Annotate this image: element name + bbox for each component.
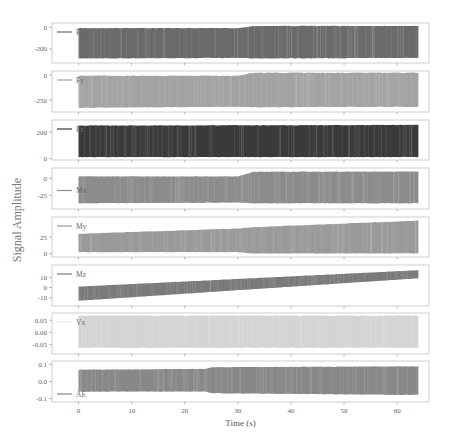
x-tick-label: 30 bbox=[234, 407, 242, 415]
y-tick-label: 25 bbox=[40, 234, 48, 242]
y-tick-label: -0.05 bbox=[32, 341, 47, 349]
signal-fz bbox=[79, 125, 419, 158]
legend-label: AE bbox=[76, 390, 86, 399]
y-tick-label: -25 bbox=[38, 192, 48, 200]
legend-label: Mz bbox=[76, 270, 87, 279]
y-tick-label: 0.1 bbox=[38, 361, 47, 369]
signal-ae bbox=[79, 366, 419, 395]
legend-label: Vx bbox=[76, 318, 85, 327]
y-tick-label: 0.05 bbox=[35, 317, 48, 325]
y-tick-label: 0 bbox=[44, 155, 48, 163]
x-tick-label: 40 bbox=[287, 407, 295, 415]
x-axis-label: Time (s) bbox=[52, 418, 429, 428]
signal-fy bbox=[79, 73, 419, 108]
y-tick-label: 10 bbox=[40, 274, 48, 282]
y-tick-label: 200 bbox=[37, 129, 48, 137]
y-tick-label: 0 bbox=[44, 24, 48, 32]
panel-mz: 100-10Mz bbox=[38, 265, 429, 309]
y-tick-label: -10 bbox=[38, 294, 48, 302]
legend-label: Fy bbox=[76, 76, 84, 85]
y-tick-label: 0 bbox=[44, 250, 48, 258]
panel-my: 250My bbox=[40, 217, 429, 260]
x-tick-label: 50 bbox=[341, 407, 349, 415]
panel-fz: 2000Fz bbox=[37, 120, 430, 163]
y-tick-label: 0.0 bbox=[38, 378, 47, 386]
signal-vx bbox=[79, 315, 419, 348]
y-tick-label: -250 bbox=[34, 97, 47, 105]
panel-ae: 0.10.0-0.1AE bbox=[36, 361, 429, 405]
y-tick-label: -0.1 bbox=[36, 395, 48, 403]
chart-figure: 0-200Fx0-250Fy2000Fz0-25Mx250My100-10Mz0… bbox=[0, 0, 453, 445]
panel-mx: 0-25Mx bbox=[38, 168, 429, 212]
panel-vx: 0.050.00-0.05Vx bbox=[32, 313, 429, 357]
legend-label: Mx bbox=[76, 186, 87, 195]
x-tick-label: 60 bbox=[394, 407, 402, 415]
x-tick-label: 20 bbox=[181, 407, 189, 415]
panel-fy: 0-250Fy bbox=[34, 71, 429, 115]
x-tick-label: 10 bbox=[128, 407, 136, 415]
y-tick-label: -200 bbox=[34, 45, 47, 53]
y-tick-label: 0 bbox=[44, 175, 48, 183]
y-tick-label: 0 bbox=[44, 72, 48, 80]
legend-label: Fx bbox=[76, 28, 84, 37]
legend-label: Fz bbox=[76, 125, 84, 134]
panel-fx: 0-200Fx bbox=[34, 23, 429, 66]
x-tick-label: 0 bbox=[77, 407, 81, 415]
y-tick-label: 0.00 bbox=[35, 329, 48, 337]
legend-label: My bbox=[76, 222, 87, 231]
y-tick-label: 0 bbox=[44, 284, 48, 292]
